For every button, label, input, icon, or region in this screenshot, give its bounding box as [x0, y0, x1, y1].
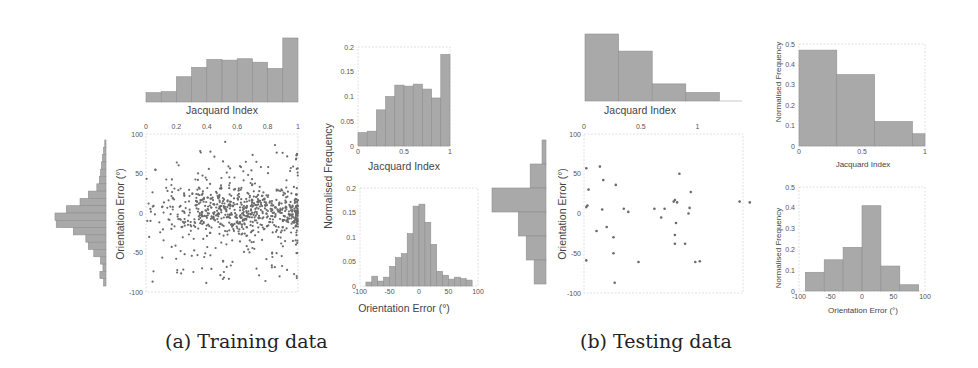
scatter-point	[222, 160, 224, 162]
scatter-point	[264, 280, 266, 282]
scatter-point	[240, 202, 242, 204]
scatter-point	[203, 256, 205, 258]
svg-text:50: 50	[573, 170, 581, 177]
scatter-point	[247, 248, 249, 250]
scatter-point	[261, 217, 263, 219]
scatter-point	[297, 225, 299, 227]
scatter-point	[270, 204, 272, 206]
scatter-point	[172, 208, 174, 210]
scatter-point	[293, 220, 295, 222]
scatter-point	[233, 230, 235, 232]
scatter-point	[271, 253, 273, 255]
scatter-point	[203, 222, 205, 224]
scatter-point	[229, 182, 231, 184]
scatter-point	[216, 203, 218, 205]
scatter-point	[162, 228, 164, 230]
scatter-point	[223, 225, 225, 227]
marginal-bar	[526, 236, 546, 260]
scatter-point	[223, 205, 225, 207]
scatter-point	[261, 224, 263, 226]
train-jacquard-hist-xlabel: Jacquard Index	[368, 160, 441, 172]
scatter-point	[296, 229, 298, 231]
hist-bar	[419, 204, 425, 286]
scatter-point	[221, 202, 223, 204]
marginal-bar	[530, 164, 546, 188]
scatter-point	[224, 141, 226, 143]
scatter-point	[178, 164, 180, 166]
scatter-point	[258, 190, 260, 192]
scatter-point	[257, 200, 259, 202]
scatter-point	[282, 194, 284, 196]
scatter-point	[176, 269, 178, 271]
scatter-point	[228, 176, 230, 178]
scatter-point	[208, 168, 210, 170]
hist-bar	[443, 275, 449, 286]
scatter-point	[180, 250, 182, 252]
scatter-point	[175, 258, 177, 260]
marginal-bar	[268, 68, 283, 102]
scatter-point	[204, 252, 206, 254]
hist-bar	[425, 222, 431, 286]
scatter-point	[281, 202, 283, 204]
scatter-point	[245, 207, 247, 209]
scatter-point	[251, 204, 253, 206]
scatter-point	[229, 167, 231, 169]
hist-bar	[824, 260, 843, 291]
scatter-point	[218, 226, 220, 228]
caption-testing: (b) Testing data	[580, 330, 732, 352]
marginal-bar	[534, 260, 546, 284]
marginal-bar	[222, 60, 237, 102]
scatter-point	[173, 188, 175, 190]
scatter-point	[236, 222, 238, 224]
test-jacquard-hist-xlabel: Jacquard Index	[836, 160, 891, 169]
scatter-point	[749, 201, 752, 204]
marginal-bar	[73, 228, 106, 235]
scatter-point	[255, 215, 257, 217]
scatter-point	[197, 179, 199, 181]
scatter-point	[285, 187, 287, 189]
scatter-point	[675, 222, 678, 225]
scatter-point	[152, 270, 154, 272]
scatter-point	[267, 172, 269, 174]
scatter-point	[194, 226, 196, 228]
scatter-point	[288, 210, 290, 212]
scatter-point	[161, 257, 163, 259]
hist-bar	[378, 281, 384, 286]
svg-text:0.2: 0.2	[172, 123, 182, 130]
scatter-point	[207, 208, 209, 210]
hist-bar	[366, 282, 372, 286]
scatter-point	[228, 184, 230, 186]
scatter-point	[204, 209, 206, 211]
scatter-point	[243, 205, 245, 207]
svg-text:0.05: 0.05	[342, 258, 356, 265]
scatter-point	[684, 242, 687, 245]
scatter-point	[224, 214, 226, 216]
hist-bar	[837, 75, 875, 146]
scatter-point	[189, 209, 191, 211]
scatter-point	[250, 182, 252, 184]
scatter-point	[190, 230, 192, 232]
figure-canvas: Jacquard Index 00.20.40.60.81100500-50-1…	[0, 0, 978, 368]
scatter-point	[241, 216, 243, 218]
scatter-point	[250, 169, 252, 171]
scatter-point	[199, 199, 201, 201]
marginal-bar	[101, 169, 106, 176]
svg-text:1: 1	[923, 148, 927, 155]
scatter-point	[278, 204, 280, 206]
scatter-point	[250, 224, 252, 226]
scatter-point	[182, 269, 184, 271]
scatter-point	[191, 192, 193, 194]
scatter-point	[238, 233, 240, 235]
train-jacquard-hist: 00.5100.050.10.150.2	[340, 44, 452, 156]
scatter-point	[226, 172, 228, 174]
scatter-point	[251, 247, 253, 249]
scatter-point	[210, 268, 212, 270]
scatter-point	[172, 197, 174, 199]
scatter-point	[246, 192, 248, 194]
scatter-point	[272, 204, 274, 206]
scatter-point	[220, 186, 222, 188]
scatter-point	[738, 200, 741, 203]
svg-text:50: 50	[445, 288, 453, 295]
scatter-point	[146, 220, 148, 222]
svg-text:0.4: 0.4	[785, 204, 795, 211]
